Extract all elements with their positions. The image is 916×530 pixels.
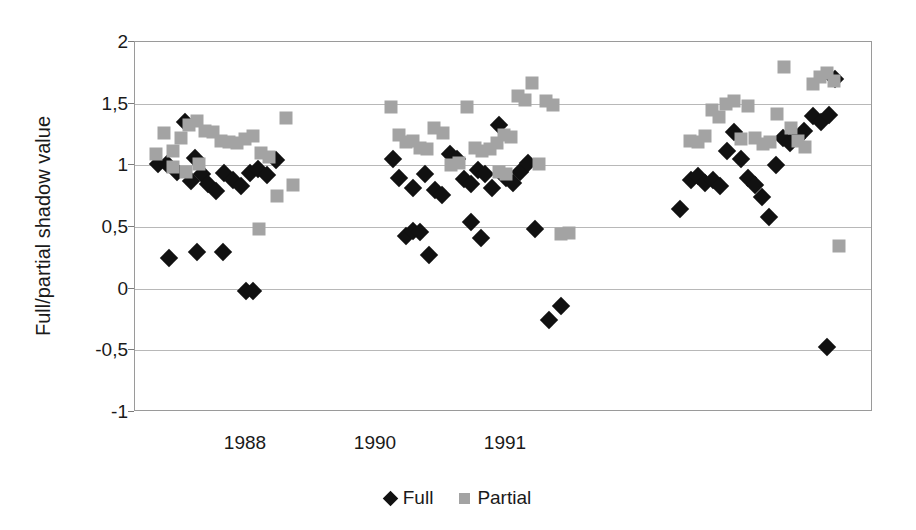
data-point-full — [160, 249, 178, 267]
data-point-partial — [491, 137, 504, 150]
data-point-full — [224, 171, 242, 189]
data-point-full — [739, 168, 757, 186]
data-point-partial — [407, 134, 420, 147]
data-point-partial — [453, 156, 466, 169]
data-point-partial — [828, 75, 841, 88]
data-point-full — [552, 297, 570, 315]
gridline — [135, 104, 871, 105]
data-point-partial — [505, 130, 518, 143]
data-point-full — [207, 182, 225, 200]
data-point-partial — [428, 122, 441, 135]
data-point-full — [504, 173, 522, 191]
data-point-full — [267, 151, 285, 169]
data-point-full — [696, 173, 714, 191]
data-point-partial — [183, 118, 196, 131]
data-point-partial — [728, 95, 741, 108]
data-point-full — [462, 175, 480, 193]
y-axis-tick-label: 0 — [68, 278, 128, 297]
data-point-full — [820, 106, 838, 124]
y-axis-tick-mark — [128, 411, 134, 412]
data-point-partial — [757, 138, 770, 151]
data-point-partial — [199, 124, 212, 137]
data-point-partial — [393, 128, 406, 141]
data-point-full — [711, 177, 729, 195]
data-point-full — [497, 168, 515, 186]
data-point-partial — [814, 70, 827, 83]
data-point-partial — [764, 135, 777, 148]
data-point-partial — [547, 98, 560, 111]
data-point-partial — [484, 143, 497, 156]
data-point-partial — [437, 127, 450, 140]
y-axis-tick-mark — [128, 164, 134, 165]
data-point-partial — [223, 135, 236, 148]
legend-item-full[interactable]: Full — [385, 487, 434, 509]
data-point-full — [760, 208, 778, 226]
data-point-partial — [193, 158, 206, 171]
gridline — [135, 165, 871, 166]
data-point-partial — [563, 227, 576, 240]
data-point-full — [826, 70, 844, 88]
y-axis-tick-label: -0,5 — [68, 340, 128, 359]
y-axis-tick-label: 1,5 — [68, 93, 128, 112]
data-point-partial — [735, 133, 748, 146]
data-point-partial — [749, 132, 762, 145]
data-point-full — [397, 226, 415, 244]
data-point-full — [149, 155, 167, 173]
data-point-full — [490, 115, 508, 133]
data-point-partial — [533, 158, 546, 171]
data-point-full — [476, 165, 494, 183]
data-point-full — [746, 176, 764, 194]
data-point-partial — [684, 134, 697, 147]
data-point-partial — [540, 95, 553, 108]
data-point-partial — [785, 122, 798, 135]
data-point-partial — [253, 223, 266, 236]
data-point-partial — [271, 190, 284, 203]
data-point-partial — [207, 126, 220, 139]
data-point-full — [469, 161, 487, 179]
data-point-full — [158, 155, 176, 173]
y-axis-ticks: 21,510,50-0,5-1 — [62, 0, 128, 530]
data-point-partial — [239, 133, 252, 146]
x-axis-tick-label: 1988 — [224, 432, 266, 454]
gridline — [135, 227, 871, 228]
data-point-full — [483, 178, 501, 196]
data-point-partial — [799, 140, 812, 153]
y-axis-tick-label: -1 — [68, 402, 128, 421]
data-point-partial — [692, 135, 705, 148]
legend-label-full: Full — [403, 487, 434, 509]
data-point-partial — [421, 143, 434, 156]
data-point-full — [540, 310, 558, 328]
data-point-partial — [498, 128, 511, 141]
data-point-partial — [833, 239, 846, 252]
data-point-full — [704, 171, 722, 189]
diamond-icon — [382, 490, 398, 506]
data-point-partial — [778, 60, 791, 73]
data-point-full — [199, 175, 217, 193]
data-point-partial — [175, 132, 188, 145]
legend-item-partial[interactable]: Partial — [459, 487, 531, 509]
data-point-full — [176, 113, 194, 131]
data-point-full — [689, 167, 707, 185]
data-point-partial — [526, 76, 539, 89]
data-point-full — [788, 129, 806, 147]
y-axis-tick-label: 0,5 — [68, 217, 128, 236]
data-point-partial — [500, 167, 513, 180]
data-point-partial — [713, 111, 726, 124]
data-point-full — [237, 282, 255, 300]
data-point-full — [441, 145, 459, 163]
data-point-full — [519, 154, 537, 172]
data-point-partial — [150, 148, 163, 161]
chart-legend: Full Partial — [0, 487, 916, 509]
data-point-full — [781, 134, 799, 152]
data-point-partial — [414, 142, 427, 155]
data-point-partial — [706, 103, 719, 116]
data-point-partial — [512, 90, 525, 103]
data-point-partial — [493, 165, 506, 178]
data-point-full — [795, 122, 813, 140]
data-point-partial — [247, 129, 260, 142]
gridline — [135, 350, 871, 351]
data-point-partial — [167, 160, 180, 173]
data-point-full — [416, 165, 434, 183]
scatter-chart: Full/partial shadow value 21,510,50-0,5-… — [0, 0, 916, 530]
data-point-full — [411, 223, 429, 241]
